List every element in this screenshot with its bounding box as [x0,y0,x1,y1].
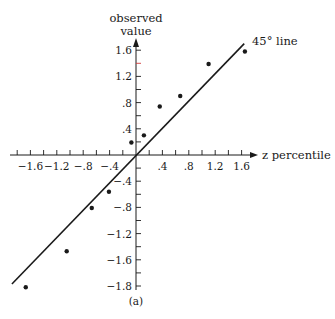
x-tick-label: .8 [184,160,194,172]
y-tick-label: −.8 [113,201,132,213]
ticks: −1.6−1.2−.8−.4.4.81.21.61.61.2.8.4−.4−.8… [17,44,250,292]
y-axis-title-line2: value [119,24,151,38]
data-point [90,206,94,210]
y-tick-label: 1.6 [115,44,132,56]
x-tick-label: −.4 [100,160,119,172]
x-tick-label: −1.6 [18,160,44,172]
data-point [158,104,162,108]
x-tick-label: .4 [157,160,167,172]
data-point [107,189,111,193]
y-tick-label: −1.8 [107,280,133,292]
y-tick-label: .4 [122,123,132,135]
qq-plot-chart: −1.6−1.2−.8−.4.4.81.21.61.61.2.8.4−.4−.8… [0,0,335,319]
data-point [129,140,133,144]
data-point [243,49,247,53]
x-tick-label: 1.6 [233,160,250,172]
y-tick-label: 1.2 [115,70,132,82]
data-point [206,62,210,66]
y-tick-label: .8 [122,97,132,109]
reference-line-label: 45° line [252,34,298,48]
y-axis-arrow-icon [133,38,139,47]
data-point [142,133,146,137]
x-tick-label: −.8 [74,160,93,172]
x-axis-title: z percentile [262,148,331,162]
qq-plot-svg: −1.6−1.2−.8−.4.4.81.21.61.61.2.8.4−.4−.8… [0,0,335,319]
y-axis-title-line1: observed [109,11,163,25]
x-tick-label: 1.2 [207,160,224,172]
data-point [178,94,182,98]
data-point [65,249,69,253]
y-tick-label: −1.6 [107,254,133,266]
y-tick-label: −1.2 [107,228,133,240]
data-point [24,285,28,289]
figure-caption: (a) [129,295,143,307]
x-tick-label: −1.2 [44,160,70,172]
x-axis-arrow-icon [250,152,258,158]
